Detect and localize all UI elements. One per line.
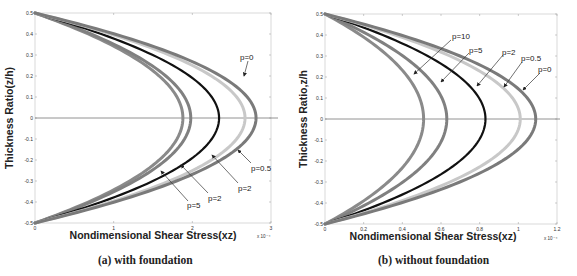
y-tick-label: 0.4 [26,31,33,37]
caption-a: (a) with foundation [98,254,193,266]
y-tick-label: -0.4 [314,200,323,206]
x-axis-label-b: Nondimensional Shear Stress(xz) [350,230,517,242]
chart-b: 0.50.40.30.20.10-0.1-0.2-0.3-0.4-0.5 00.… [297,11,561,242]
figure-canvas: 0.50.40.30.20.10-0.1-0.2-0.3-0.4-0.5 012… [0,0,577,276]
y-tick-label: -0.3 [314,179,323,185]
y-tick-label: 0 [320,116,323,122]
y-tick-label: 0.5 [316,11,323,17]
annotation-b-p5: p=5 [469,46,483,55]
annotation-b-p05: p=0.5 [521,54,542,63]
annotation-b-p2: p=2 [502,48,516,57]
y-tick-label: -0.2 [24,157,33,163]
x-tick-label: 1.2 [554,226,561,232]
y-tick-label: -0.5 [314,221,323,227]
y-axis-label-a: Thickness Ratio(z/h) [3,67,15,169]
y-tick-label: 0.1 [316,95,323,101]
y-tick-label: -0.2 [314,158,323,164]
annotation-a-p2-upper: p=2 [238,184,252,193]
y-tick-label: 0.4 [316,32,323,38]
y-tick-label: -0.5 [24,220,33,226]
y-tick-label: -0.1 [24,136,33,142]
x-tick-label: 3 [270,225,273,231]
y-tick-label: 0.2 [316,74,323,80]
annotation-a-p05: p=0.5 [251,164,272,173]
annotation-a-p0: p=0 [240,53,254,62]
chart-a: 0.50.40.30.20.10-0.1-0.2-0.3-0.4-0.5 012… [3,10,278,241]
y-tick-label: -0.3 [24,178,33,184]
caption-b: (b) without foundation [378,254,489,266]
annotation-a-p2-lower: p=2 [208,194,222,203]
x-axis-label-a: Nondimensional Shear Stress(xz) [70,229,237,241]
y-tick-label: 0.1 [26,94,33,100]
x-ticks-b: 00.20.40.60.811.2 [324,14,561,232]
y-tick-label: -0.4 [24,199,33,205]
annotation-b-p10: p=10 [452,32,471,41]
annotation-a-p5: p=5 [187,201,201,210]
x-exponent-b: x 10⁻⁴ [544,236,558,241]
y-tick-label: 0.3 [26,52,33,58]
x-tick-label: 1 [517,226,520,232]
x-exponent-a: x 10⁻⁴ [257,234,271,239]
y-tick-label: 0 [30,115,33,121]
y-tick-label: 0.3 [316,53,323,59]
y-tick-label: -0.1 [314,137,323,143]
y-tick-label: 0.5 [26,10,33,16]
x-tick-label: 0 [324,226,327,232]
annotation-b-p0: p=0 [538,65,552,74]
x-tick-label: 0 [34,225,37,231]
y-tick-label: 0.2 [26,73,33,79]
y-axis-label-b: Thickness Ratio,z/h [297,70,309,168]
